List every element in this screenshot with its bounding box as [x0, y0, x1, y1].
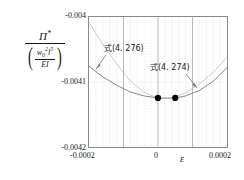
- x-tick-label-left: -0.0002: [70, 152, 95, 160]
- y-tick-label-middle: -0.0041: [61, 78, 86, 86]
- annotation-label-276: 式(4. 276): [104, 44, 144, 53]
- plot-area: [88, 16, 228, 148]
- y-axis-numerator: Π*: [24, 30, 66, 43]
- data-point-marker-1: [172, 95, 178, 101]
- denominator-numerator: w02l5: [35, 46, 56, 59]
- y-axis-label: Π* ( w02l5 EI ): [8, 30, 82, 69]
- left-paren: (: [28, 47, 33, 68]
- x-axis-label: ε: [180, 153, 184, 164]
- y-tick-label-top: -0.004: [65, 12, 86, 20]
- chart-figure: Π* ( w02l5 EI ) -0.004 -0.0041 -0.0042: [0, 0, 244, 180]
- y-axis-denominator: ( w02l5 EI ): [24, 44, 66, 69]
- chart-canvas: [89, 17, 227, 147]
- x-tick-label-middle: 0: [154, 152, 158, 160]
- annotation-label-274: 式(4. 274): [150, 63, 190, 72]
- right-paren: ): [57, 47, 62, 68]
- x-tick-label-right: 0.0002: [209, 152, 231, 160]
- denominator-denominator: EI: [35, 60, 56, 69]
- data-point-marker-0: [155, 95, 161, 101]
